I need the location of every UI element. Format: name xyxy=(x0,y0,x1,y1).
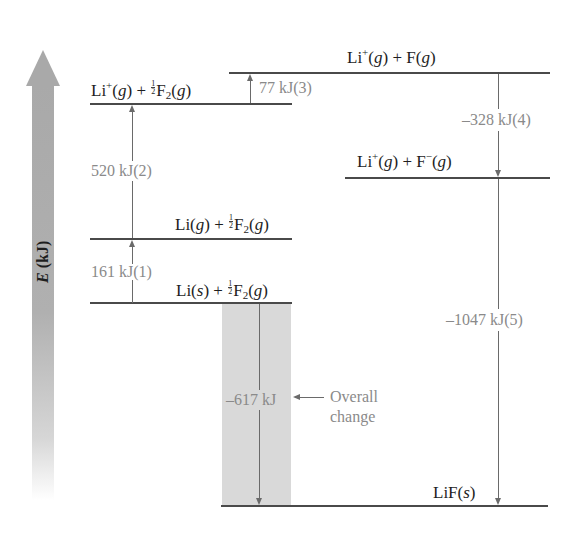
step2-label: 520 kJ(2) xyxy=(90,161,153,181)
one-half: 12 xyxy=(229,214,233,229)
overall-note-line2: change xyxy=(330,409,375,425)
step2-arrowhead xyxy=(129,105,135,112)
overall-pointer-line xyxy=(298,397,324,398)
step5-arrow-shaft xyxy=(498,179,499,499)
level-li-plus-f xyxy=(229,72,550,74)
energy-axis-arrow xyxy=(32,84,54,500)
step5-arrowhead xyxy=(495,498,501,505)
level-li-s-half-f2 xyxy=(90,302,292,304)
step3-arrow-shaft xyxy=(250,79,251,103)
level-li-g-half-f2 xyxy=(90,238,292,240)
label-lif-s: LiF(s) xyxy=(433,484,476,501)
level-li-plus-f-minus xyxy=(345,177,550,179)
step4-label: –328 kJ(4) xyxy=(461,109,532,131)
step1-arrowhead xyxy=(129,240,135,247)
label-li-plus-half-f2: Li+(g) + 12F2(g) xyxy=(91,80,191,99)
energy-axis-arrowhead xyxy=(26,50,60,86)
one-half: 12 xyxy=(151,80,155,95)
step4-arrowhead xyxy=(495,170,501,177)
overall-arrowhead xyxy=(256,498,262,505)
step1-label: 161 kJ(1) xyxy=(90,264,153,280)
step3-label: 77 kJ(3) xyxy=(259,80,312,96)
label-li-plus-f: Li+(g) + F(g) xyxy=(347,49,436,66)
one-half: 12 xyxy=(228,280,232,295)
step3-arrowhead xyxy=(247,74,253,81)
level-li-plus-half-f2 xyxy=(90,103,292,105)
step5-label: –1047 kJ(5) xyxy=(445,309,524,331)
overall-pointer-arrowhead xyxy=(293,394,300,400)
overall-label: –617 kJ xyxy=(225,390,277,410)
level-lif-s xyxy=(221,505,548,507)
overall-note-line1: Overall xyxy=(330,389,378,405)
label-li-plus-f-minus: Li+(g) + F−(g) xyxy=(357,153,452,170)
label-li-s-half-f2: Li(s) + 12F2(g) xyxy=(176,280,268,299)
energy-axis-label: E (kJ) xyxy=(34,243,52,283)
label-li-g-half-f2: Li(g) + 12F2(g) xyxy=(175,214,269,233)
